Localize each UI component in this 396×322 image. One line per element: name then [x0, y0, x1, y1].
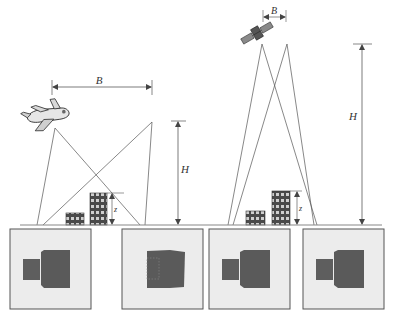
left-baseline-dimension: B — [52, 74, 152, 95]
left-baseline-label: B — [96, 74, 103, 86]
image-panel-2 — [122, 229, 203, 309]
left-scene: B H — [19, 74, 200, 225]
right-height-dimension: H — [348, 44, 372, 224]
right-baseline-label: B — [271, 5, 277, 16]
right-relief-label: z — [298, 204, 303, 213]
satellite-icon — [239, 19, 274, 46]
image-panel-1 — [10, 229, 91, 309]
left-relief-label: z — [113, 205, 118, 214]
left-relief-dimension: z — [107, 193, 124, 224]
stereo-geometry-figure: B H — [0, 0, 396, 322]
right-baseline-dimension: B — [263, 5, 286, 22]
left-height-label: H — [180, 163, 190, 175]
image-panel-3 — [209, 229, 290, 309]
left-height-dimension: H — [171, 121, 190, 224]
right-relief-dimension: z — [290, 191, 303, 224]
right-buildings — [246, 191, 290, 225]
right-scene: B H z — [200, 5, 382, 225]
airplane-icon — [19, 97, 71, 133]
right-height-label: H — [348, 110, 358, 122]
image-panel-4 — [303, 229, 384, 309]
